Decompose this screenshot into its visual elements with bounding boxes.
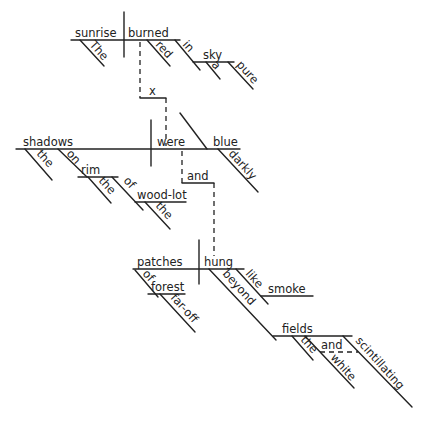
connector-1-2-label: x (149, 84, 156, 98)
sentence-diagram: sunrise burned The red in sky a pure x s… (0, 0, 430, 426)
clause-2-darkly: darkly (226, 147, 260, 183)
clause-2-complement: blue (213, 135, 238, 149)
clause-3-conjunction: and (321, 338, 343, 352)
clause-3-smoke: smoke (268, 282, 306, 296)
connector-2-3: and (182, 151, 214, 256)
clause-1-in: in (180, 38, 197, 55)
clause-3-subject: patches (137, 255, 183, 269)
clause-2-subject: shadows (23, 135, 73, 149)
clause-3: patches hung of forest far-off like smok… (133, 240, 412, 407)
clause-1-article: The (86, 37, 111, 63)
clause-2: shadows were blue the on rim the of wood… (16, 113, 260, 229)
clause-1: sunrise burned The red in sky a pure (71, 12, 262, 89)
clause-1-red: red (153, 38, 176, 61)
clause-2-article: the (34, 147, 57, 170)
clause-3-white: white (328, 351, 359, 384)
connector-2-3-label: and (187, 169, 209, 183)
clause-2-verb: were (157, 135, 185, 149)
clause-3-scintillating: scintillating (353, 334, 408, 393)
clause-2-rim: rim (81, 163, 100, 177)
